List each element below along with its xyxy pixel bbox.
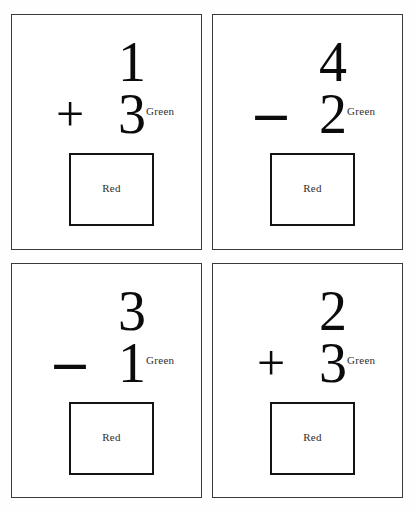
arithmetic-problem: 2 + 3 Green xyxy=(213,282,402,400)
worksheet-sheet: 1 + 3 Green Red 4 – 2 Green Red xyxy=(0,0,414,511)
flashcard-grid: 1 + 3 Green Red 4 – 2 Green Red xyxy=(11,14,403,498)
flashcard[interactable]: 3 – 1 Green Red xyxy=(11,263,202,498)
flashcard[interactable]: 2 + 3 Green Red xyxy=(212,263,403,498)
green-label: Green xyxy=(146,105,174,117)
arithmetic-problem: 4 – 2 Green xyxy=(213,33,402,151)
red-label: Red xyxy=(71,182,152,194)
operator-symbol: + xyxy=(247,334,295,392)
flashcard[interactable]: 1 + 3 Green Red xyxy=(11,14,202,250)
answer-box[interactable]: Red xyxy=(270,402,355,475)
operator-symbol: + xyxy=(46,85,94,143)
arithmetic-problem: 3 – 1 Green xyxy=(12,282,201,400)
red-label: Red xyxy=(272,431,353,443)
green-label: Green xyxy=(146,354,174,366)
arithmetic-problem: 1 + 3 Green xyxy=(12,33,201,151)
answer-box[interactable]: Red xyxy=(69,153,154,226)
operator-symbol: – xyxy=(247,85,295,137)
flashcard[interactable]: 4 – 2 Green Red xyxy=(212,14,403,250)
answer-box[interactable]: Red xyxy=(69,402,154,475)
green-label: Green xyxy=(347,105,375,117)
red-label: Red xyxy=(71,431,152,443)
answer-box[interactable]: Red xyxy=(270,153,355,226)
green-label: Green xyxy=(347,354,375,366)
red-label: Red xyxy=(272,182,353,194)
operator-symbol: – xyxy=(46,334,94,386)
